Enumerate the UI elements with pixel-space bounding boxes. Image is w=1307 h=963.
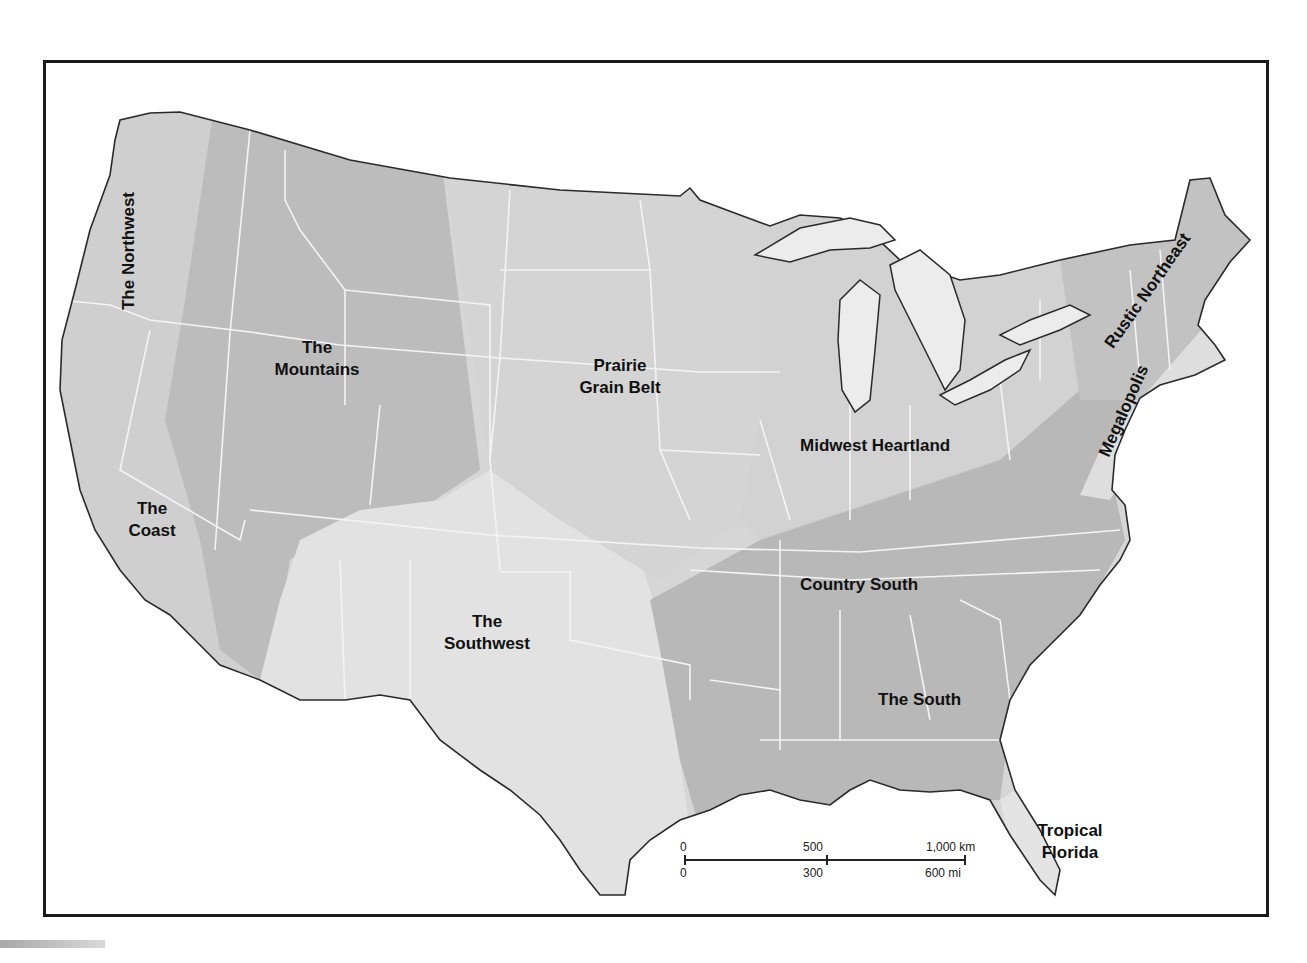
region-label-mountains-line2: Mountains bbox=[262, 359, 372, 381]
scale-mi-mid: 300 bbox=[803, 866, 823, 880]
region-label-mountains: The Mountains bbox=[262, 337, 372, 381]
region-label-florida-line1: Tropical bbox=[1025, 820, 1115, 842]
region-label-country-south: Country South bbox=[800, 574, 918, 596]
scale-tick-start bbox=[684, 855, 686, 865]
scale-km-end: 1,000 km bbox=[926, 840, 975, 854]
region-label-prairie-line1: Prairie bbox=[560, 355, 680, 377]
scale-tick-end bbox=[964, 855, 966, 865]
scale-tick-mid bbox=[826, 855, 828, 865]
us-regions-map bbox=[0, 0, 1307, 963]
region-label-prairie: Prairie Grain Belt bbox=[560, 355, 680, 399]
region-label-coast-line1: The bbox=[112, 498, 192, 520]
region-label-prairie-line2: Grain Belt bbox=[560, 377, 680, 399]
region-label-northwest: The Northwest bbox=[118, 192, 140, 310]
scale-mi-zero: 0 bbox=[680, 866, 687, 880]
region-label-southwest-line2: Southwest bbox=[432, 633, 542, 655]
region-label-mountains-line1: The bbox=[262, 337, 372, 359]
region-label-midwest: Midwest Heartland bbox=[800, 435, 950, 457]
scan-artifact bbox=[0, 940, 105, 948]
region-label-southwest-line1: The bbox=[432, 611, 542, 633]
scale-bar: 0 500 1,000 km 0 300 600 mi bbox=[680, 840, 990, 890]
scale-line bbox=[684, 859, 966, 861]
region-label-coast-line2: Coast bbox=[112, 520, 192, 542]
region-label-south: The South bbox=[878, 689, 961, 711]
region-label-southwest: The Southwest bbox=[432, 611, 542, 655]
region-label-coast: The Coast bbox=[112, 498, 192, 542]
region-label-tropical-florida: Tropical Florida bbox=[1025, 820, 1115, 864]
scale-km-mid: 500 bbox=[803, 840, 823, 854]
region-label-florida-line2: Florida bbox=[1025, 842, 1115, 864]
scale-km-zero: 0 bbox=[680, 840, 687, 854]
scale-mi-end: 600 mi bbox=[925, 866, 961, 880]
